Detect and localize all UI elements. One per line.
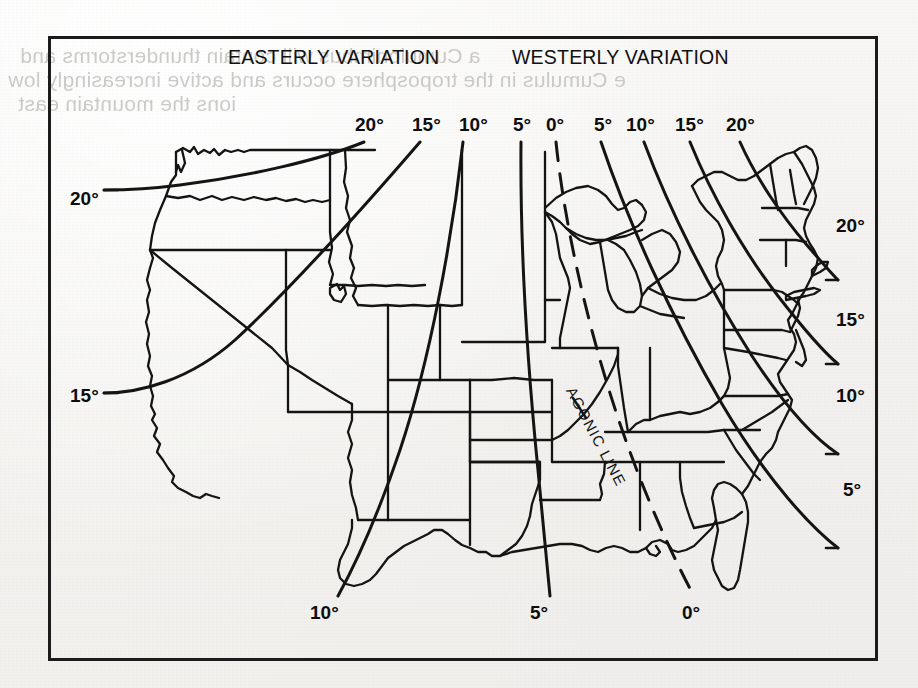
border-nevada-arizona (288, 365, 352, 404)
great-salt-lake (330, 284, 346, 302)
border-ohio-michigan (640, 306, 684, 318)
isogonic-20-westerly (740, 142, 838, 280)
border-illinois-indiana (618, 348, 628, 432)
coastline-florida (712, 482, 748, 590)
puget-sound-inlet (176, 150, 185, 172)
coastline-gulf (500, 520, 716, 556)
border-nevada-california (150, 250, 288, 412)
lake-michigan (600, 240, 642, 312)
border-nevada-utah (286, 250, 288, 365)
border-west-virginia (718, 348, 730, 402)
coastline-atlantic (742, 152, 818, 494)
border-delmarva (796, 330, 806, 366)
border-texas (338, 462, 540, 586)
agonic-label-leader (573, 398, 586, 418)
border-pennsylvania-maryland (724, 330, 790, 332)
coastline-pacific (146, 152, 219, 498)
border-minnesota-wisconsin (545, 212, 570, 348)
border-nebraska-north (470, 378, 552, 380)
maine-outline (794, 146, 818, 204)
isogonic-15-easterly (104, 142, 420, 393)
border-alabama-georgia (680, 462, 694, 528)
border-nh-maine (790, 170, 796, 204)
border-idaho-east (329, 150, 333, 285)
border-mass-south (760, 240, 806, 242)
border-mass-north (762, 208, 808, 210)
isogonic-10-easterly (338, 142, 463, 596)
border-washington-oregon (166, 196, 330, 202)
great-lakes-superior (545, 186, 646, 244)
border-arkansas-mississippi (600, 462, 605, 500)
border-montana-wyoming (358, 305, 462, 306)
cape-cod (812, 262, 828, 276)
border-kentucky-north (628, 396, 724, 432)
border-missouri-illinois (552, 348, 618, 440)
variation-map (0, 0, 918, 688)
